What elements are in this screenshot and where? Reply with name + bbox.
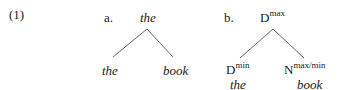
tree-a-left-branch [113,29,147,57]
tree-b-leaf-word-the: the [230,78,246,90]
tree-a-right-branch [147,29,173,57]
tree-b-root-superscript: max [269,8,285,18]
tree-b-leaf-n-maxmin: Nmax/min [284,63,325,76]
tree-a-root: the [140,11,156,24]
tree-a-leaf-book: book [163,64,188,77]
example-number: (1) [9,8,24,21]
tree-b-right-branch [273,29,304,58]
tree-b-label: b. [224,11,234,24]
tree-b-root-category: D [260,10,269,25]
tree-b-leaf-d-min: Dmin [226,63,249,76]
tree-b-left-branch [240,29,273,58]
tree-b-leaf-n-category: N [284,62,293,77]
tree-a-leaf-the: the [102,64,118,77]
tree-b-leaf-word-book: book [297,78,322,90]
tree-b-leaf-d-superscript: min [235,60,249,70]
tree-b-root: Dmax [260,11,285,24]
tree-b-leaf-n-superscript: max/min [293,60,325,70]
tree-a-label: a. [104,11,113,24]
tree-b-leaf-d-category: D [226,62,235,77]
